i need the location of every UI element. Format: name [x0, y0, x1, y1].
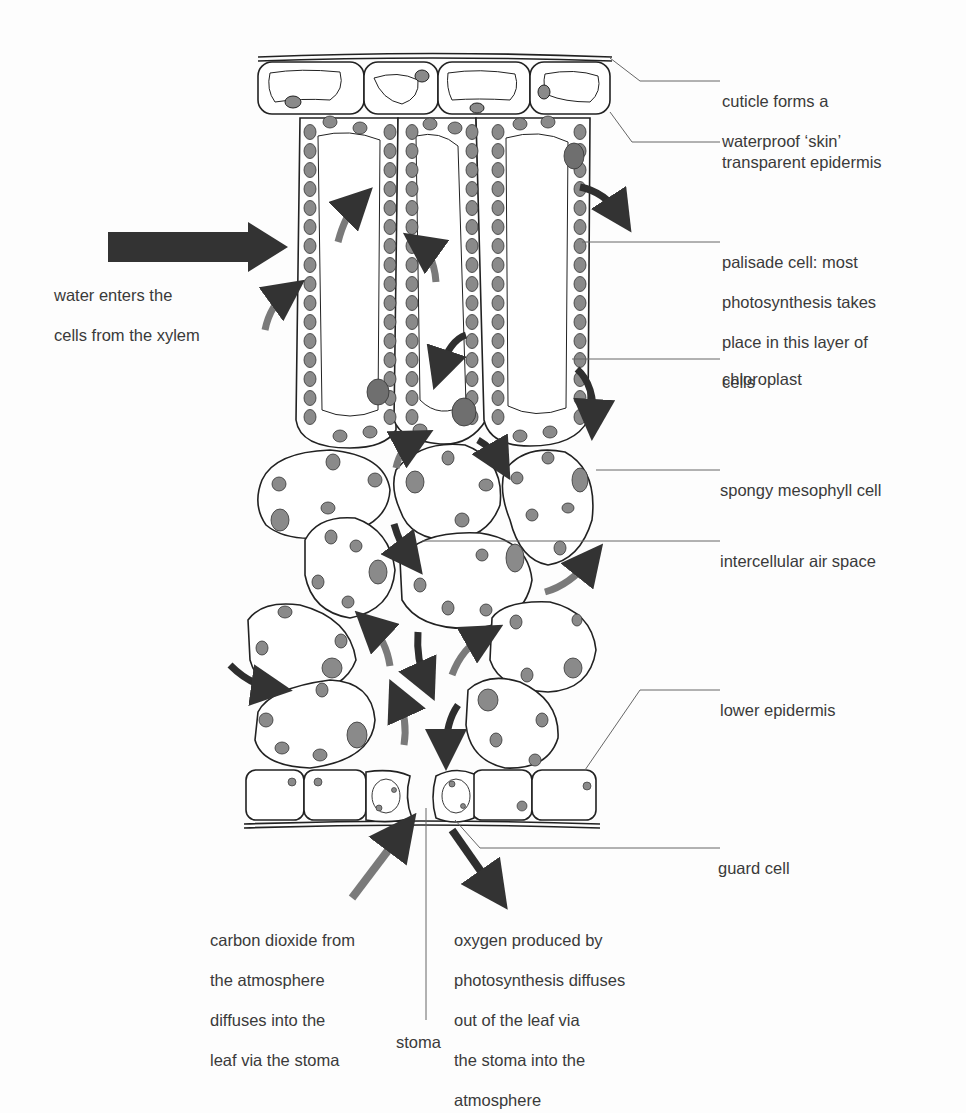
- lower-epidermis: [244, 770, 600, 828]
- label-carbon-dioxide: carbon dioxide from the atmosphere diffu…: [210, 910, 355, 1090]
- label-intercellular-air-space: intercellular air space: [720, 531, 876, 591]
- palisade-layer: [296, 118, 590, 448]
- label-water-enters: water enters the cells from the xylem: [54, 265, 200, 365]
- co2-arrow: [352, 832, 402, 898]
- upper-epidermis: [258, 62, 610, 114]
- oxygen-arrow: [452, 830, 494, 890]
- label-lower-epidermis: lower epidermis: [720, 680, 836, 740]
- label-oxygen: oxygen produced by photosynthesis diffus…: [454, 910, 625, 1113]
- label-guard-cell: guard cell: [718, 838, 790, 898]
- label-spongy-mesophyll: spongy mesophyll cell: [720, 460, 881, 520]
- cuticle: [258, 54, 612, 62]
- label-stoma: stoma: [396, 1012, 441, 1072]
- label-transparent-epidermis: transparent epidermis: [722, 132, 882, 192]
- label-chloroplast: chloroplast: [722, 349, 802, 409]
